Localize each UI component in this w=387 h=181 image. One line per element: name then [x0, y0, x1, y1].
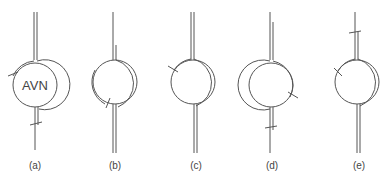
panel-d: (d)	[238, 12, 298, 171]
panel-label-a: (a)	[29, 160, 41, 171]
panel-c: (c)	[168, 12, 215, 171]
panel-e: (e)	[334, 12, 379, 171]
block-mark	[334, 68, 342, 76]
panel-b: (b)	[92, 12, 137, 171]
panel-label-e: (e)	[353, 160, 365, 171]
block-mark	[265, 126, 277, 128]
panel-a: AVN (a)	[8, 12, 70, 171]
panel-label-b: (b)	[109, 160, 121, 171]
panel-label-d: (d)	[266, 160, 278, 171]
panel-label-c: (c)	[190, 160, 202, 171]
block-mark	[30, 122, 42, 125]
avn-label: AVN	[22, 78, 48, 93]
av-nodal-pathway-diagram: AVN (a) (b) (c) (d)	[0, 0, 387, 181]
